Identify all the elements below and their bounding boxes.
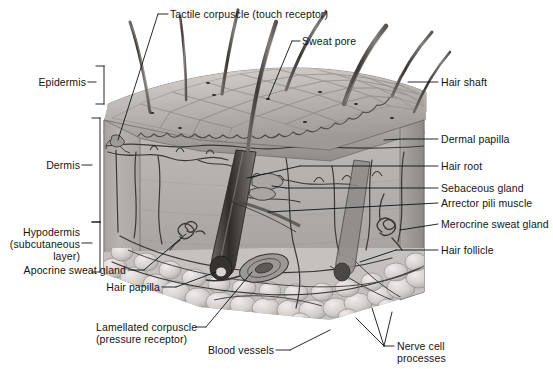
label-hair-shaft: Hair shaft (441, 76, 487, 88)
skin-anatomy-figure: Tactile corpuscle (touch receptor) Sweat… (0, 0, 553, 369)
hair-papilla-knob (216, 267, 227, 277)
label-merocrine-sweat-gland: Merocrine sweat gland (441, 218, 549, 230)
label-epidermis: Epidermis (0, 76, 86, 88)
label-hypodermis-line1: Hypodermis (0, 226, 80, 238)
label-blood-vessels: Blood vessels (196, 344, 274, 356)
label-apocrine-sweat-gland: Apocrine sweat gland (0, 264, 126, 276)
label-tactile-corpuscle: Tactile corpuscle (touch receptor) (170, 8, 328, 20)
layer-brackets (82, 66, 104, 272)
label-lamellated-corpuscle-line1: Lamellated corpuscle (96, 321, 197, 333)
leader-blood-vessels-2 (290, 330, 330, 350)
label-hair-papilla: Hair papilla (0, 281, 160, 293)
label-lamellated-corpuscle-line2: (pressure receptor) (96, 333, 187, 345)
label-dermal-papilla: Dermal papilla (441, 133, 510, 145)
label-hair-root: Hair root (441, 160, 482, 172)
label-hypodermis-line2: (subcutaneous (0, 238, 80, 250)
label-nerve-cell-line2: processes (397, 352, 446, 364)
label-sebaceous-gland: Sebaceous gland (441, 182, 524, 194)
label-dermis: Dermis (0, 159, 80, 171)
label-hair-follicle: Hair follicle (441, 244, 494, 256)
leader-nerve-4 (384, 312, 392, 346)
label-arrector-pili-muscle: Arrector pili muscle (441, 197, 532, 209)
bracket-epidermis (96, 66, 104, 104)
label-sweat-pore: Sweat pore (302, 35, 356, 47)
bracket-dermis (92, 118, 100, 222)
label-hypodermis-line3: layer) (0, 250, 80, 262)
label-nerve-cell-line1: Nerve cell (397, 340, 445, 352)
